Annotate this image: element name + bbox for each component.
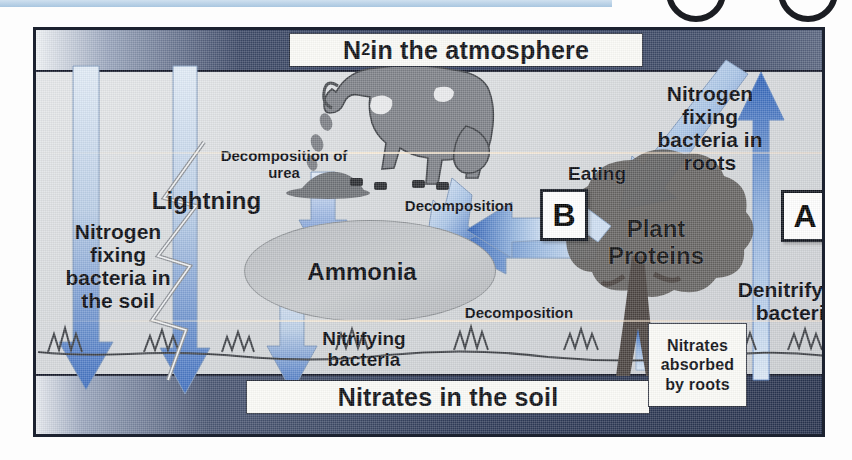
nitrogen-cycle-figure: N2 in the atmosphere Nitrates in the soi… (0, 0, 852, 460)
key-label-b: B (540, 189, 588, 241)
bicycle-illustration (660, 0, 845, 24)
atmosphere-title-plate: N2 in the atmosphere (289, 33, 643, 67)
key-label-a: A (781, 190, 825, 242)
atmosphere-title-rest: in the atmosphere (370, 36, 589, 65)
label-decomposition-of-urea: Decomposition of urea (218, 148, 350, 181)
label-decomposition-animal: Decomposition (391, 198, 527, 215)
label-decomposition-plant: Decomposition (451, 305, 587, 322)
label-eating: Eating (552, 164, 642, 185)
label-nitrogen-fixing-bacteria-roots: Nitrogen fixing bacteria in roots (651, 82, 769, 174)
label-nitrogen-fixing-bacteria-soil: Nitrogen fixing bacteria in the soil (58, 220, 178, 312)
page-top-strip (0, 0, 612, 7)
diagram-frame: N2 in the atmosphere Nitrates in the soi… (33, 27, 825, 437)
label-nitrifying-bacteria: Nitrifying bacteria (304, 329, 424, 371)
soil-title-plate: Nitrates in the soil (246, 380, 650, 414)
nitrates-absorbed-plate: Nitrates absorbed by roots (648, 323, 747, 407)
label-denitrifying-bacteria: Denitrifying bacteria (726, 278, 825, 324)
label-plant-proteins: Plant Proteins (586, 216, 726, 270)
atmosphere-title-n: N (343, 36, 361, 65)
label-lightning: Lightning (144, 188, 269, 214)
label-ammonia: Ammonia (292, 259, 432, 285)
atmosphere-title-subscript: 2 (361, 41, 370, 59)
